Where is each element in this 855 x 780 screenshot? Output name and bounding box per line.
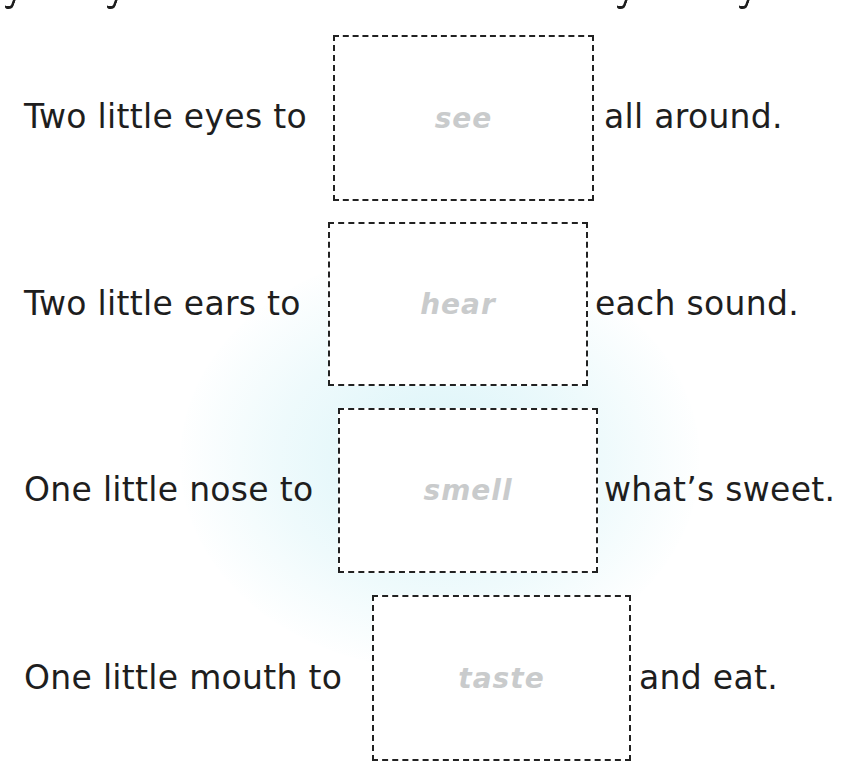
traced-answer: hear [420,288,496,321]
sentence-start: Two little eyes to [24,97,307,137]
clipped-descender [4,0,18,9]
answer-box[interactable]: hear [328,222,588,386]
sentence-start: One little nose to [24,470,313,510]
traced-answer: see [435,102,493,135]
clipped-descender [616,0,630,9]
sentence-end: each sound. [595,284,799,324]
sentence-start: One little mouth to [24,658,342,698]
clipped-descender [106,0,120,9]
answer-box[interactable]: see [333,35,594,201]
sentence-end: all around. [604,97,783,137]
answer-box[interactable]: taste [372,595,631,761]
traced-answer: taste [458,662,544,695]
sentence-end: and eat. [639,658,778,698]
sentence-start: Two little ears to [24,284,301,324]
traced-answer: smell [423,474,512,507]
clipped-previous-line [0,0,855,12]
clipped-descender [738,0,752,9]
answer-box[interactable]: smell [338,408,598,573]
sentence-end: what’s sweet. [604,470,835,510]
